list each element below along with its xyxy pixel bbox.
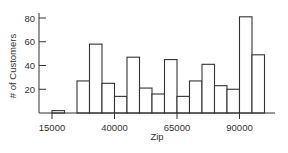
histogram-chart: 20406080 15000400006500090000 # of Custo… <box>0 0 288 153</box>
y-tick-label: 20 <box>24 84 35 95</box>
histogram-bar <box>190 81 203 113</box>
x-tick-label: 15000 <box>39 122 65 133</box>
x-tick-label: 90000 <box>226 122 252 133</box>
histogram-bar <box>152 94 165 113</box>
x-ticks: 15000400006500090000 <box>39 113 253 133</box>
y-ticks: 20406080 <box>24 13 46 95</box>
histogram-bar <box>77 81 90 113</box>
histogram-bar <box>165 60 178 113</box>
histogram-bar <box>177 96 190 113</box>
histogram-bar <box>252 55 265 113</box>
histogram-bar <box>202 64 215 113</box>
histogram-bar <box>140 88 153 113</box>
histogram-bar <box>102 83 115 113</box>
histogram-bars <box>52 17 265 113</box>
histogram-bar <box>127 57 140 113</box>
y-tick-label: 40 <box>24 60 35 71</box>
y-tick-label: 80 <box>24 13 35 24</box>
y-tick-label: 60 <box>24 36 35 47</box>
histogram-bar <box>227 89 240 113</box>
histogram-bar <box>115 96 128 113</box>
y-axis-label: # of Customers <box>7 34 18 99</box>
x-tick-label: 40000 <box>101 122 127 133</box>
x-axis-label: Zip <box>150 131 163 142</box>
histogram-bar <box>240 17 253 113</box>
histogram-bar <box>90 44 103 113</box>
histogram-bar <box>215 86 228 113</box>
x-tick-label: 65000 <box>164 122 190 133</box>
